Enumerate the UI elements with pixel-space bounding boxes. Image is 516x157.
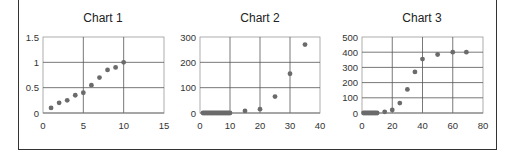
x-tick-label: 20 bbox=[387, 120, 398, 131]
y-tick-label: 200 bbox=[342, 77, 358, 88]
data-point bbox=[413, 70, 418, 75]
x-tick-label: 40 bbox=[417, 120, 428, 131]
y-tick-label: 0 bbox=[353, 108, 358, 119]
data-point bbox=[382, 109, 387, 114]
x-tick-label: 0 bbox=[359, 120, 364, 131]
y-tick-label: 400 bbox=[342, 47, 358, 58]
x-tick-label: 60 bbox=[447, 120, 458, 131]
y-tick-label: 300 bbox=[342, 62, 358, 73]
scatter-chart-3: 0204060800100200300400500 bbox=[0, 0, 516, 157]
y-tick-label: 100 bbox=[342, 92, 358, 103]
data-point bbox=[397, 101, 402, 106]
data-point bbox=[405, 87, 410, 92]
data-point bbox=[464, 50, 469, 55]
data-point bbox=[450, 50, 455, 55]
data-point bbox=[420, 57, 425, 62]
x-tick-label: 80 bbox=[478, 120, 489, 131]
data-point bbox=[390, 108, 395, 113]
data-point bbox=[375, 111, 380, 116]
y-tick-label: 500 bbox=[342, 32, 358, 43]
data-point bbox=[435, 52, 440, 57]
